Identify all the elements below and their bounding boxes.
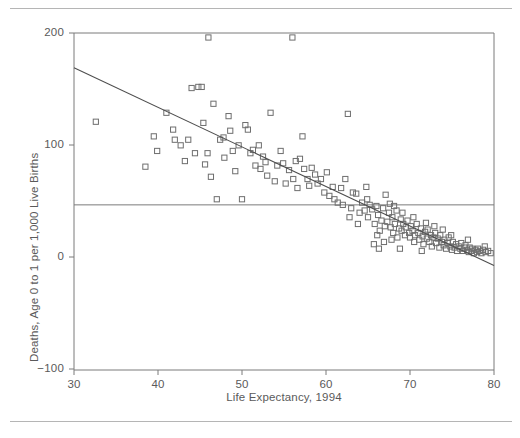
data-point-marker [345, 111, 350, 116]
data-point-marker [202, 162, 207, 167]
data-point-marker [376, 246, 381, 251]
data-point-marker [309, 165, 314, 170]
data-point-marker [432, 224, 437, 229]
x-tick-label-50: 50 [222, 378, 262, 390]
data-point-marker [206, 35, 211, 40]
data-point-marker [228, 128, 233, 133]
data-point-marker [186, 137, 191, 142]
data-point-marker [155, 148, 160, 153]
data-point-marker [192, 151, 197, 156]
data-point-marker [230, 148, 235, 153]
data-point-marker [253, 163, 258, 168]
data-point-marker [291, 176, 296, 181]
data-point-marker [189, 85, 194, 90]
data-point-marker [268, 110, 273, 115]
data-point-marker [222, 155, 227, 160]
data-point-marker [324, 170, 329, 175]
data-point-marker [258, 166, 263, 171]
data-point-marker [256, 143, 261, 148]
data-point-marker [347, 215, 352, 220]
data-point-marker [211, 101, 216, 106]
data-point-marker [339, 185, 344, 190]
data-point-marker [151, 134, 156, 139]
data-point-marker [419, 248, 424, 253]
x-tick-label-80: 80 [474, 378, 514, 390]
data-point-marker [199, 84, 204, 89]
data-point-marker [343, 176, 348, 181]
data-points-group [93, 35, 493, 256]
data-point-marker [290, 35, 295, 40]
scatter-plot-canvas [0, 0, 520, 438]
regression-line [74, 68, 494, 266]
data-point-marker [383, 192, 388, 197]
data-point-marker [375, 212, 380, 217]
data-point-marker [272, 179, 277, 184]
data-point-marker [265, 173, 270, 178]
data-point-marker [423, 220, 428, 225]
data-point-marker [201, 120, 206, 125]
y-axis-ticks [69, 33, 74, 369]
data-point-marker [381, 206, 386, 211]
regression-line-segment [74, 68, 494, 266]
data-point-marker [263, 160, 268, 165]
data-point-marker [322, 190, 327, 195]
data-point-marker [196, 84, 201, 89]
x-tick-label-30: 30 [54, 378, 94, 390]
data-point-marker [172, 137, 177, 142]
data-point-marker [171, 127, 176, 132]
x-axis-title: Life Expectancy, 1994 [74, 391, 494, 403]
data-point-marker [283, 181, 288, 186]
data-point-marker [233, 169, 238, 174]
data-point-marker [357, 210, 362, 215]
data-point-marker [300, 134, 305, 139]
x-axis-ticks [74, 370, 494, 375]
data-point-marker [365, 197, 370, 202]
x-tick-label-60: 60 [306, 378, 346, 390]
data-point-marker [178, 143, 183, 148]
data-point-marker [389, 237, 394, 242]
data-point-marker [362, 208, 367, 213]
plot-frame [74, 33, 494, 370]
data-point-marker [364, 184, 369, 189]
data-point-marker [365, 215, 370, 220]
x-tick-label-70: 70 [390, 378, 430, 390]
data-point-marker [93, 119, 98, 124]
data-point-marker [379, 218, 384, 223]
data-point-marker [205, 151, 210, 156]
data-point-marker [182, 158, 187, 163]
data-point-marker [465, 237, 470, 242]
data-point-marker [349, 206, 354, 211]
data-point-marker [302, 166, 307, 171]
data-point-marker [372, 221, 377, 226]
data-point-marker [214, 197, 219, 202]
x-tick-label-40: 40 [138, 378, 178, 390]
data-point-marker [371, 242, 376, 247]
data-point-marker [400, 210, 405, 215]
data-point-marker [381, 239, 386, 244]
data-point-marker [440, 227, 445, 232]
figure-container: 200 100 0 −100 30 40 50 60 70 80 Deaths,… [0, 0, 520, 438]
data-point-marker [307, 183, 312, 188]
data-point-marker [312, 172, 317, 177]
data-point-marker [278, 148, 283, 153]
data-point-marker [226, 114, 231, 119]
data-point-marker [411, 215, 416, 220]
y-tick-label-minus-100: −100 [20, 362, 64, 374]
data-point-marker [239, 197, 244, 202]
data-point-marker [327, 193, 332, 198]
data-point-marker [355, 221, 360, 226]
y-axis-title: Deaths, Age 0 to 1 per 1,000 Live Births [28, 22, 40, 362]
data-point-marker [143, 164, 148, 169]
data-point-marker [332, 197, 337, 202]
data-point-marker [397, 246, 402, 251]
data-point-marker [295, 185, 300, 190]
data-point-marker [208, 174, 213, 179]
